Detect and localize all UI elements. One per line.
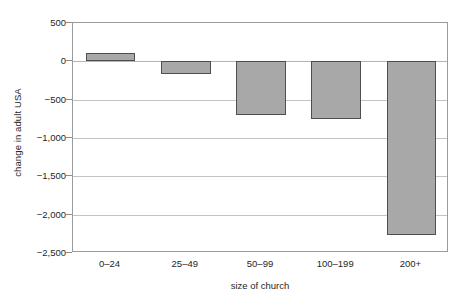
x-axis-tick-label: 0–24 [99, 258, 120, 269]
y-axis-tick-mark [66, 22, 72, 23]
bar [236, 61, 286, 115]
x-axis-tick-label: 100–199 [317, 258, 354, 269]
y-axis-tick-label: −1,000 [22, 132, 66, 143]
y-axis-tick-mark [66, 252, 72, 253]
bar [161, 61, 211, 73]
y-axis-tick-label: −2,500 [22, 247, 66, 258]
y-axis-tick-mark [66, 175, 72, 176]
x-axis-tick-label: 50–99 [247, 258, 273, 269]
y-axis-tick-label: −500 [22, 93, 66, 104]
bar-chart-figure: change in adult USA 5000−500−1,000−1,500… [0, 0, 466, 305]
x-axis-tick-label: 25–49 [172, 258, 198, 269]
x-axis-tick-labels: 0–2425–4950–99100–199200+ [72, 258, 448, 274]
plot-inner [73, 23, 447, 251]
y-axis-tick-mark [66, 99, 72, 100]
y-axis-tick-label: 0 [22, 55, 66, 66]
y-axis-tick-label: −1,500 [22, 170, 66, 181]
bar [387, 61, 437, 234]
y-axis-tick-label: 500 [22, 17, 66, 28]
x-axis-title: size of church [72, 280, 448, 291]
y-axis-tick-label: −2,000 [22, 208, 66, 219]
y-axis-tick-mark [66, 137, 72, 138]
bar [86, 53, 136, 61]
y-axis-tick-mark [66, 60, 72, 61]
plot-area [72, 22, 448, 252]
x-axis-tick-label: 200+ [400, 258, 421, 269]
y-axis-tick-mark [66, 214, 72, 215]
y-axis-tick-labels: 5000−500−1,000−1,500−2,000−2,500 [18, 0, 66, 305]
bar [311, 61, 361, 119]
